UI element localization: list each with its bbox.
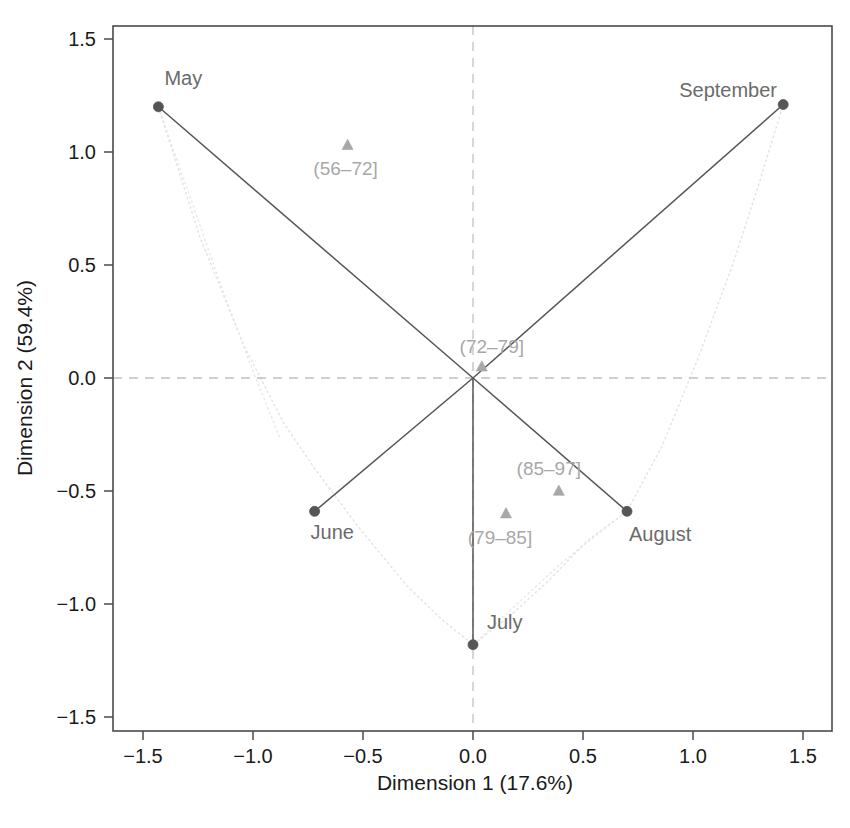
x-axis-title: Dimension 1 (17.6%) [377, 771, 573, 794]
envelope-segment-0 [158, 107, 279, 437]
x-tick-label: 1.0 [679, 745, 707, 767]
x-tick-label: −1.0 [233, 745, 272, 767]
x-tick-label: 1.5 [789, 745, 817, 767]
connector-lines-layer [158, 105, 783, 645]
y-tick-label: 1.5 [68, 28, 96, 50]
month-marker [310, 506, 320, 516]
x-tick-label: 0.5 [569, 745, 597, 767]
y-tick-label: −1.5 [57, 706, 96, 728]
y-tick-label: 0.5 [68, 254, 96, 276]
month-marker [468, 640, 478, 650]
x-tick-label: −1.5 [123, 745, 162, 767]
connector-line-3 [473, 378, 627, 511]
month-marker [622, 506, 632, 516]
category-point-label: (79–85] [468, 527, 532, 548]
month-marker [153, 102, 163, 112]
correspondence-analysis-biplot: −1.5−1.0−0.50.00.51.01.51.51.00.50.0−0.5… [0, 0, 850, 828]
connector-line-1 [315, 378, 473, 511]
y-tick-label: 0.0 [68, 367, 96, 389]
y-axis-title: Dimension 2 (59.4%) [13, 280, 36, 476]
x-tick-label: −0.5 [343, 745, 382, 767]
y-tick-label: 1.0 [68, 141, 96, 163]
month-marker [778, 100, 788, 110]
category-marker [500, 508, 511, 518]
envelope-curve [158, 105, 783, 645]
month-point-label: June [311, 521, 354, 543]
category-point-label: (72–79] [460, 336, 524, 357]
data-points-layer [153, 100, 788, 650]
y-tick-label: −0.5 [57, 480, 96, 502]
biplot-canvas: −1.5−1.0−0.50.00.51.01.51.51.00.50.0−0.5… [0, 0, 850, 828]
connector-line-0 [158, 107, 473, 378]
x-tick-label: 0.0 [459, 745, 487, 767]
month-point-label: May [164, 67, 202, 89]
point-labels-layer: MayJuneJulyAugustSeptember(56–72](72–79]… [164, 67, 777, 633]
category-point-label: (56–72] [313, 158, 377, 179]
y-tick-label: −1.0 [57, 593, 96, 615]
axis-ticks-layer: −1.5−1.0−0.50.00.51.01.51.51.00.50.0−0.5… [57, 28, 817, 767]
month-point-label: July [487, 611, 523, 633]
month-point-label: September [679, 79, 777, 101]
category-marker [342, 139, 353, 149]
category-marker [553, 485, 564, 495]
month-point-label: August [629, 523, 692, 545]
dotted-envelope-layer [158, 105, 783, 645]
category-point-label: (85–97] [517, 458, 581, 479]
